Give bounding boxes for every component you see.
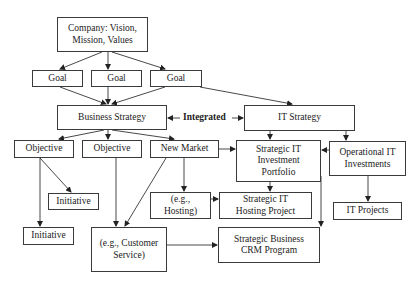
- node-strategic-it-portfolio: Strategic IT Investment Portfolio: [236, 140, 321, 182]
- node-goal-1: Goal: [32, 70, 83, 87]
- integrated-label: Integrated: [183, 112, 226, 122]
- node-business-strategy: Business Strategy: [57, 105, 167, 130]
- node-goal-2: Goal: [91, 70, 142, 87]
- node-initiative-2: Initiative: [23, 227, 74, 245]
- node-goal-3: Goal: [150, 70, 202, 87]
- it-strategy-alignment-diagram: Company: Vision, Mission, Values Goal Go…: [0, 0, 420, 284]
- node-objective-1: Objective: [14, 140, 74, 158]
- node-eg-hosting: (e.g., Hosting): [150, 192, 211, 219]
- node-strategic-it-hosting: Strategic IT Hosting Project: [219, 192, 312, 219]
- node-strategic-crm: Strategic Business CRM Program: [218, 227, 320, 263]
- node-operational-it: Operational IT Investments: [329, 141, 406, 176]
- node-company-vision: Company: Vision, Mission, Values: [57, 17, 148, 52]
- node-initiative-1: Initiative: [48, 193, 99, 210]
- node-it-projects: IT Projects: [333, 202, 402, 220]
- node-objective-2: Objective: [82, 140, 142, 158]
- node-it-strategy: IT Strategy: [244, 105, 355, 131]
- node-new-market: New Market: [150, 140, 219, 158]
- node-eg-customer-service: (e.g., Customer Service): [91, 227, 167, 272]
